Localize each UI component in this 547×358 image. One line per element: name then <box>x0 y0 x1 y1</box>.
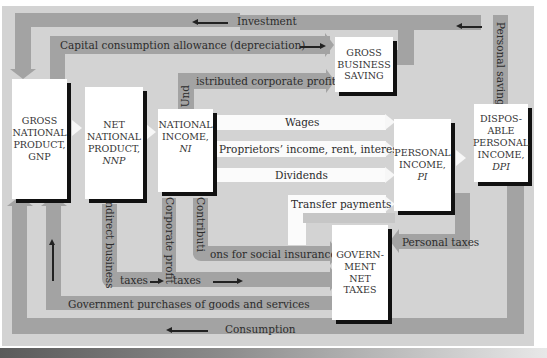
indirect-business-label: Indirect business <box>104 197 115 289</box>
contributions-label-horizontal: ons for social insurance <box>210 249 337 260</box>
gnp-box: GROSSNATIONALPRODUCT,GNP <box>12 79 67 199</box>
personal-taxes-arrowhead <box>390 229 399 253</box>
undistributed-label-vertical: Und <box>180 85 191 107</box>
taxes-label-1: taxes <box>120 275 148 286</box>
corporate-profit-label: Corporate profit <box>164 197 175 284</box>
consumption-label: Consumption <box>225 324 296 335</box>
nnp-to-ni-arrow <box>146 124 156 140</box>
personal-saving-label: Personal saving <box>495 22 506 106</box>
personal-taxes-label: Personal taxes <box>402 237 479 248</box>
taxes-arrow-1 <box>150 281 158 283</box>
gross-business-saving-box: GROSSBUSINESSSAVING <box>335 37 393 92</box>
taxes-label-2: taxes <box>173 275 201 286</box>
investment-arrowhead <box>10 69 36 79</box>
gbs-to-investment-band2 <box>396 50 414 65</box>
undistributed-label-horizontal: istributed corporate profits <box>196 76 341 87</box>
transfer-gray-band <box>303 213 395 223</box>
ni-box: NATIONALINCOME,NI <box>158 109 213 192</box>
gov-purchases-label: Government purchases of goods and servic… <box>68 299 310 310</box>
capital-consumption-arrowhead <box>325 33 334 57</box>
nnp-box: NETNATIONALPRODUCT,NNP <box>85 87 143 199</box>
pi-to-dpi-arrow <box>456 150 466 166</box>
consumption-band-right <box>507 180 524 334</box>
consumption-band-left <box>12 204 27 334</box>
page-edge-shadow <box>0 348 547 358</box>
capital-consumption-label: Capital consumption allowance (depreciat… <box>60 40 305 51</box>
personal-saving-direction-arrow <box>462 26 482 28</box>
wages-label: Wages <box>285 117 319 128</box>
proprietors-label: Proprietors’ income, rent, interest <box>219 144 402 155</box>
contributions-label-vertical: Contributi <box>195 197 206 252</box>
personal-income-box: PERSONALINCOME,PI <box>394 119 451 211</box>
investment-band-left <box>15 13 31 71</box>
gov-purchases-direction-arrow <box>52 245 54 281</box>
capital-consumption-direction-arrow <box>300 46 320 48</box>
investment-band-top <box>15 13 240 27</box>
dividends-label: Dividends <box>275 170 328 181</box>
disposable-personal-income-box: DISPOS-ABLEPERSONALINCOME,DPI <box>474 104 528 182</box>
consumption-direction-arrow <box>172 330 208 332</box>
government-net-taxes-box: GOVERN-MENTNETTAXES <box>332 225 388 320</box>
investment-direction-arrow <box>198 22 228 24</box>
transfer-label: Transfer payments <box>291 199 391 210</box>
investment-label: Investment <box>237 16 297 27</box>
gov-purchases-band-left <box>46 204 61 308</box>
gnp-to-nnp-arrow <box>72 120 82 136</box>
taxes-arrow-2 <box>213 281 237 283</box>
